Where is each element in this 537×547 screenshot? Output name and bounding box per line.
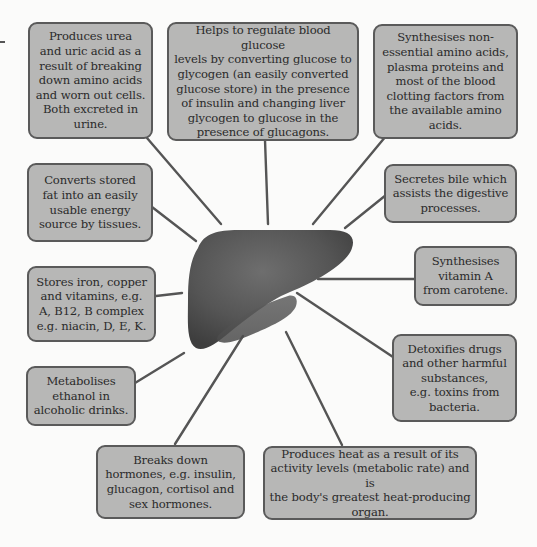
function-box-iron: Stores iron, copper and vitamins, e.g. A… [27,266,156,342]
function-box-bile: Secretes bile which assists the digestiv… [384,164,517,223]
function-text-amino-acids: Synthesises non- essential amino acids, … [382,30,508,132]
function-text-vitamin-a: Synthesises vitamin A from carotene. [423,254,508,298]
function-box-heat: Produces heat as a result of its activit… [263,446,477,520]
function-text-bile: Secretes bile which assists the digestiv… [393,172,508,216]
function-text-fat: Converts stored fat into an easily usabl… [39,173,141,231]
function-box-fat: Converts stored fat into an easily usabl… [27,163,153,242]
function-text-ethanol: Metabolises ethanol in alcoholic drinks. [34,374,128,418]
function-text-hormones: Breaks down hormones, e.g. insulin, gluc… [105,453,236,511]
function-text-detox: Detoxifies drugs and other harmful subst… [402,342,507,415]
function-box-glucose: Helps to regulate blood glucose levels b… [167,22,359,141]
function-box-vitamin-a: Synthesises vitamin A from carotene. [414,246,517,306]
function-box-urea: Produces urea and uric acid as a result … [28,22,153,139]
function-box-hormones: Breaks down hormones, e.g. insulin, gluc… [96,445,245,519]
function-text-iron: Stores iron, copper and vitamins, e.g. A… [36,275,147,333]
function-box-detox: Detoxifies drugs and other harmful subst… [392,334,517,422]
function-box-ethanol: Metabolises ethanol in alcoholic drinks. [26,366,136,426]
function-text-urea: Produces urea and uric acid as a result … [36,29,145,131]
liver-illustration [188,230,353,349]
liver-functions-diagram: Produces urea and uric acid as a result … [0,0,537,547]
function-text-glucose: Helps to regulate blood glucose levels b… [173,23,353,140]
function-text-heat: Produces heat as a result of its activit… [269,447,471,520]
function-box-amino-acids: Synthesises non- essential amino acids, … [373,24,518,139]
